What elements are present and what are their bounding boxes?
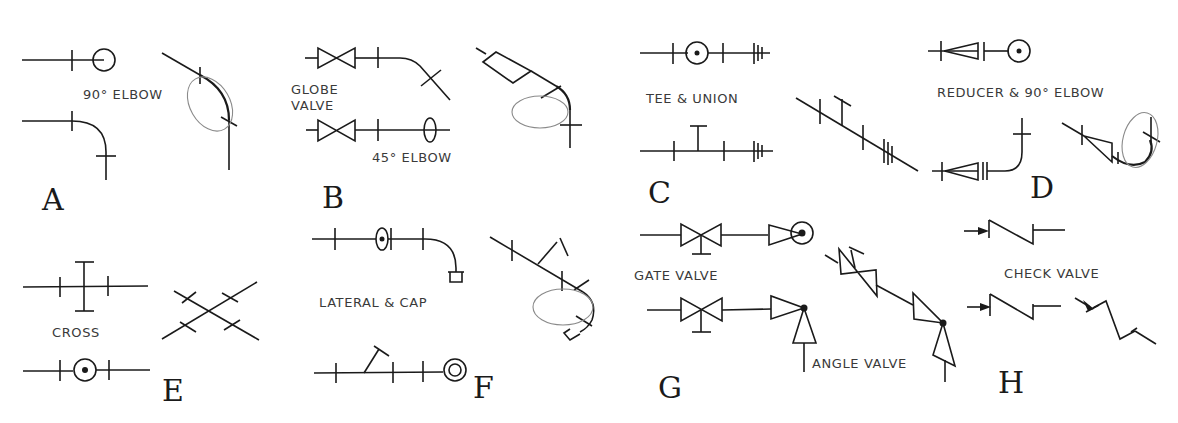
panel-f: LATERAL & CAP F [312, 228, 594, 405]
panel-letter-h: H [998, 365, 1024, 400]
panel-h: CHECK VALVE H [964, 220, 1156, 400]
check-valve-isometric-symbol [1075, 298, 1156, 344]
panel-g: GATE VALVE ANGLE VALVE G [634, 222, 955, 405]
label-lateral-cap: LATERAL & CAP [319, 295, 427, 310]
label-globe: GLOBE [291, 82, 338, 97]
reducer-elbow-isometric-symbol [1062, 109, 1164, 172]
lateral-cap-bottom-symbol [314, 346, 466, 383]
label-gate-valve: GATE VALVE [634, 268, 718, 283]
label-tee-union: TEE & UNION [645, 91, 738, 106]
cross-bottom-symbol [23, 359, 150, 381]
label-angle-valve: ANGLE VALVE [812, 356, 907, 371]
panel-e: CROSS E [23, 262, 259, 408]
label-90-elbow: 90° ELBOW [83, 87, 163, 102]
elbow-isometric-symbol [162, 53, 242, 170]
reducer-elbow-top-symbol [928, 40, 1030, 62]
reducer-elbow-side-symbol [932, 118, 1031, 181]
panel-letter-d: D [1030, 170, 1054, 205]
panel-d: REDUCER & 90° ELBOW D [928, 40, 1164, 205]
cross-top-symbol [23, 262, 148, 311]
label-45-elbow: 45° ELBOW [372, 150, 452, 165]
panel-letter-a: A [41, 182, 64, 217]
tee-union-isometric-symbol [796, 96, 918, 171]
panel-c: TEE & UNION C [640, 42, 918, 210]
lateral-cap-isometric-symbol [490, 237, 594, 340]
elbow-plan-symbol [22, 111, 116, 180]
cross-isometric-symbol [162, 282, 259, 340]
tee-union-side-symbol [640, 126, 773, 162]
lateral-cap-top-symbol [312, 228, 464, 282]
panel-letter-g: G [658, 370, 682, 405]
globe-valve-isometric-symbol [476, 48, 582, 148]
tee-union-top-symbol [640, 42, 770, 64]
panel-letter-f: F [473, 370, 494, 405]
elbow-toward-symbol [22, 49, 115, 71]
check-valve-top-symbol [964, 220, 1065, 244]
label-check-valve: CHECK VALVE [1004, 266, 1099, 281]
gate-valve-top-symbol [640, 222, 813, 254]
panel-a: 90° ELBOW A [22, 49, 242, 217]
label-cross: CROSS [52, 325, 100, 340]
panel-letter-c: C [648, 175, 671, 210]
panel-letter-b: B [322, 180, 344, 215]
panel-b: GLOBE VALVE 45° ELBOW B [291, 47, 582, 215]
globe-valve-45-elbow-front-symbol [306, 118, 450, 142]
check-valve-side-symbol [967, 294, 1061, 319]
label-reducer-elbow: REDUCER & 90° ELBOW [937, 85, 1104, 100]
piping-symbols-diagram: 90° ELBOW A GLOBE VALVE [0, 0, 1178, 423]
label-valve: VALVE [291, 98, 334, 113]
panel-letter-e: E [162, 373, 184, 408]
angle-valve-side-symbol [647, 296, 816, 372]
